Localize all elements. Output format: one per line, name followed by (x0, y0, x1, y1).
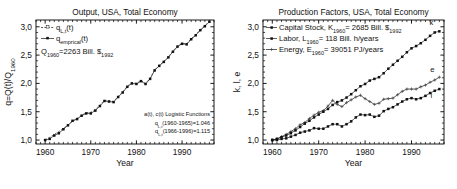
capital-marker (322, 110, 325, 113)
empirical-marker (90, 112, 93, 115)
x-tick-label: 1970 (82, 147, 101, 157)
capital-marker (312, 116, 315, 119)
capital-marker (326, 108, 329, 111)
empirical-marker (181, 43, 184, 46)
labor-marker (373, 116, 376, 119)
empirical-marker (108, 100, 111, 103)
capital-marker (298, 126, 301, 129)
figure-two-panel-charts: Output, USA, Total Economy19601970198019… (0, 0, 457, 189)
labor-marker (387, 108, 390, 111)
empirical-marker (135, 83, 138, 86)
labor-marker (303, 130, 306, 133)
labor-marker (359, 113, 362, 116)
capital-marker (289, 132, 292, 135)
capital-marker (340, 99, 343, 102)
y-tick-label: 2,0 (20, 78, 32, 88)
energy-marker (414, 87, 417, 90)
empirical-marker (58, 132, 61, 135)
capital-marker (363, 83, 366, 86)
legend-note: Q1960=2263 Bill. $1992 (41, 47, 113, 58)
x-tick-label: 1990 (402, 147, 421, 157)
curve-label-k: k (429, 18, 433, 27)
capital-marker (368, 79, 371, 82)
x-axis-title: Year (116, 158, 134, 168)
energy-marker (419, 85, 422, 88)
labor-marker (284, 137, 287, 140)
labor-marker (340, 125, 343, 128)
empirical-marker (94, 109, 97, 112)
chart-title: Production Factors, USA, Total Economy (278, 7, 429, 17)
chart-panel-production-factors: Production Factors, USA, Total Economy19… (229, 0, 457, 189)
labor-marker (419, 97, 422, 100)
labor-marker (322, 127, 325, 130)
capital-marker (354, 89, 357, 92)
empirical-marker (144, 83, 147, 86)
annotation-1: qL,t(1960-1965)=1.046 (155, 120, 210, 129)
labor-marker (368, 113, 371, 116)
capital-marker (284, 134, 287, 137)
labor-marker (271, 139, 274, 142)
empirical-marker (149, 78, 152, 81)
labor-marker (354, 116, 357, 119)
y-tick-label: 2,0 (247, 78, 259, 88)
legend-marker-1 (46, 37, 49, 40)
curve-label-l: l (430, 91, 432, 100)
capital-marker (419, 42, 422, 45)
legend-marker-2 (270, 48, 273, 51)
x-tick-label: 1980 (127, 147, 146, 157)
labor-marker (377, 114, 380, 117)
empirical-marker (121, 91, 124, 94)
empirical-marker (199, 29, 202, 32)
capital-marker (331, 104, 334, 107)
labor-marker (391, 106, 394, 109)
energy-marker (409, 87, 412, 90)
capital-marker (317, 113, 320, 116)
capital-marker (410, 47, 413, 50)
labor-marker (438, 88, 441, 91)
labor-marker (363, 114, 366, 117)
empirical-marker (76, 118, 79, 121)
empirical-marker (140, 80, 143, 83)
labor-marker (294, 134, 297, 137)
empirical-marker (99, 105, 102, 108)
production-factors-usa-chart: Production Factors, USA, Total Economy19… (229, 0, 457, 189)
capital-marker (405, 51, 408, 54)
x-tick-label: 1990 (173, 147, 192, 157)
energy-marker (433, 78, 436, 81)
empirical-marker (194, 34, 197, 37)
capital-marker (349, 93, 352, 96)
empirical-marker (103, 100, 106, 103)
x-tick-label: 1960 (263, 147, 282, 157)
empirical-marker (62, 128, 64, 131)
y-tick-label: 1,0 (20, 135, 32, 145)
empirical-marker (167, 56, 170, 59)
empirical-marker (80, 114, 83, 117)
empirical-marker (176, 45, 179, 48)
y-tick-label: 1,0 (247, 135, 259, 145)
legend-marker-0 (46, 25, 49, 28)
labor-marker (405, 98, 408, 101)
y-axis-title: q=Q(t)/Q1960 (3, 58, 16, 106)
annotation-2: qL,t(1966-1996)=1.115 (155, 128, 210, 137)
labor-marker (331, 123, 334, 126)
capital-marker (400, 56, 403, 59)
labor-marker (280, 138, 283, 141)
empirical-marker (67, 124, 70, 127)
empirical-marker (158, 65, 161, 68)
capital-marker (308, 120, 311, 123)
labor-marker (414, 98, 417, 101)
capital-marker (303, 122, 306, 125)
empirical-marker (163, 61, 166, 64)
y-tick-label: 2,5 (247, 50, 259, 60)
energy-marker (372, 103, 375, 106)
y-tick-label: 3,0 (247, 22, 259, 32)
empirical-marker (131, 82, 134, 85)
capital-marker (396, 60, 399, 63)
labor-marker (345, 123, 348, 126)
chart-title: Output, USA, Total Economy (72, 7, 178, 17)
empirical-marker (48, 138, 51, 141)
chart-panel-output: Output, USA, Total Economy19601970198019… (0, 0, 229, 189)
labor-marker (312, 127, 315, 130)
capital-marker (382, 72, 385, 75)
labor-marker (298, 131, 301, 134)
